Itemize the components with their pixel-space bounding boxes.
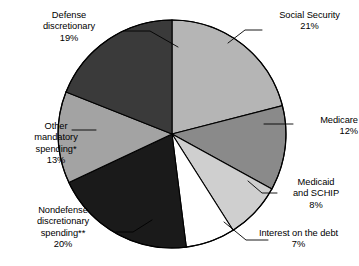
- pie-label-medicaid-value: 8%: [276, 200, 356, 211]
- pie-label-social-security-line1: Social Security: [262, 10, 357, 21]
- pie-label-medicare: Medicare 12%: [294, 115, 358, 138]
- pie-label-medicaid-line1: Medicaid: [276, 177, 356, 188]
- pie-label-interest-line1: Interest on the debt: [238, 228, 359, 239]
- pie-label-nondefense-value: 20%: [10, 239, 116, 250]
- pie-label-other-mandatory: Other mandatory spending* 13%: [6, 121, 106, 167]
- pie-chart-figure: Defense discretionary 19% Social Securit…: [0, 0, 359, 266]
- pie-label-defense-discretionary: Defense discretionary 19%: [14, 10, 124, 44]
- pie-label-nondefense-discretionary: Nondefense discretionary spending** 20%: [10, 205, 116, 251]
- pie-label-other-mandatory-value: 13%: [6, 155, 106, 166]
- pie-label-nondefense-line1: Nondefense: [10, 205, 116, 216]
- pie-label-interest-on-the-debt: Interest on the debt 7%: [238, 228, 359, 251]
- pie-label-nondefense-line2: discretionary: [10, 216, 116, 227]
- pie-label-social-security-value: 21%: [262, 21, 357, 32]
- pie-label-medicaid-schip: Medicaid and SCHIP 8%: [276, 177, 356, 211]
- pie-label-medicare-line1: Medicare: [294, 115, 358, 126]
- pie-label-other-mandatory-line3: spending*: [6, 144, 106, 155]
- pie-label-other-mandatory-line2: mandatory: [6, 132, 106, 143]
- pie-label-defense-line2: discretionary: [14, 21, 124, 32]
- pie-label-social-security: Social Security 21%: [262, 10, 357, 33]
- pie-label-defense-value: 19%: [14, 33, 124, 44]
- pie-label-other-mandatory-line1: Other: [6, 121, 106, 132]
- pie-label-interest-value: 7%: [238, 239, 359, 250]
- pie-label-medicare-value: 12%: [294, 126, 358, 137]
- pie-label-defense-line1: Defense: [14, 10, 124, 21]
- pie-label-medicaid-line2: and SCHIP: [276, 188, 356, 199]
- pie-label-nondefense-line3: spending**: [10, 228, 116, 239]
